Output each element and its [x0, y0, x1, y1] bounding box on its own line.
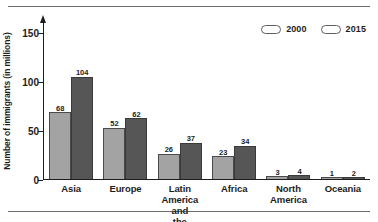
bar-value-label: 3 — [275, 169, 279, 177]
top-divider-rule — [8, 6, 370, 7]
bar-2000[interactable]: 3 — [266, 176, 288, 179]
bar-group: 2334 — [207, 22, 261, 179]
x-axis-label: Asia — [44, 183, 98, 194]
bar-chart-figure: 2000 2015 Number of immigrants (in milli… — [0, 0, 378, 222]
bar-2000[interactable]: 23 — [212, 156, 234, 179]
bar-2000[interactable]: 1 — [321, 177, 343, 179]
x-axis-label: Europe — [98, 183, 152, 194]
bar-value-label: 23 — [219, 149, 227, 157]
x-axis-label-line: Africa — [207, 183, 261, 194]
x-axis-label-line: Asia — [44, 183, 98, 194]
bar-group: 34 — [261, 22, 315, 179]
y-tick-label: 150 — [22, 27, 39, 38]
x-axis-line — [43, 179, 370, 180]
y-axis-title: Number of immigrants (in millions) — [2, 22, 14, 180]
x-axis-label: NorthAmerica — [261, 183, 315, 205]
y-tick-label: 100 — [22, 76, 39, 87]
bar-2000[interactable]: 68 — [49, 112, 71, 179]
plot-area: 050100150 681045262263723343412 — [43, 22, 370, 180]
bar-value-label: 62 — [132, 111, 140, 119]
bar-group: 68104 — [44, 22, 98, 179]
bar-group: 12 — [316, 22, 370, 179]
x-axis-labels: AsiaEuropeLatin America andthe Caribbean… — [44, 183, 370, 222]
x-axis-label-line: America — [261, 194, 315, 205]
bar-value-label: 26 — [165, 146, 173, 154]
x-axis-label-line: North — [261, 183, 315, 194]
bar-groups: 681045262263723343412 — [44, 22, 370, 179]
bar-value-label: 4 — [297, 168, 301, 176]
bar-value-label: 34 — [241, 138, 249, 146]
bar-2015[interactable]: 37 — [180, 143, 202, 179]
y-tick-label: 50 — [28, 125, 39, 136]
bar-2015[interactable]: 62 — [125, 118, 147, 179]
bar-value-label: 68 — [56, 105, 64, 113]
y-tick-label: 0 — [33, 175, 39, 186]
x-axis-label-line: Europe — [98, 183, 152, 194]
x-axis-label: Latin America andthe Caribbean — [153, 183, 207, 222]
x-axis-label-line: the Caribbean — [153, 216, 207, 222]
bar-2015[interactable]: 104 — [71, 77, 93, 179]
x-axis-label: Africa — [207, 183, 261, 194]
bar-value-label: 37 — [187, 135, 195, 143]
bar-2015[interactable]: 34 — [234, 146, 256, 179]
bar-2000[interactable]: 26 — [158, 154, 180, 180]
bar-value-label: 104 — [76, 69, 89, 77]
bar-group: 2637 — [153, 22, 207, 179]
bar-2015[interactable]: 2 — [343, 177, 365, 179]
bar-value-label: 1 — [330, 170, 334, 178]
x-axis-label-line: Latin America and — [153, 183, 207, 216]
bar-2015[interactable]: 4 — [288, 175, 310, 179]
x-axis-label: Oceania — [316, 183, 370, 194]
bar-value-label: 52 — [110, 120, 118, 128]
x-axis-label-line: Oceania — [316, 183, 370, 194]
bar-value-label: 2 — [352, 170, 356, 178]
bar-2000[interactable]: 52 — [103, 128, 125, 179]
bar-group: 5262 — [98, 22, 152, 179]
